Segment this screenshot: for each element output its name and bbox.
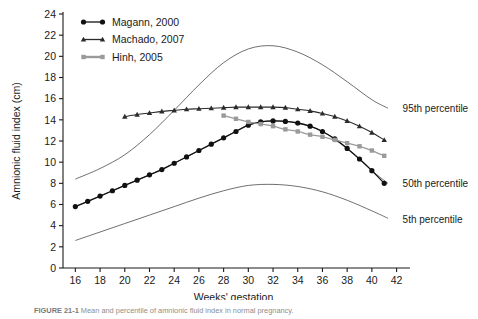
y-tick-label: 10 <box>44 156 56 168</box>
series-marker-magann <box>85 199 90 204</box>
series-marker-hinh <box>258 122 262 126</box>
series-marker-hinh <box>246 120 250 124</box>
percentile-annotation-1: 95th percentile <box>403 103 469 114</box>
y-tick-label: 8 <box>50 177 56 189</box>
legend-label-hinh: Hinh, 2005 <box>112 51 163 63</box>
series-marker-magann <box>97 193 102 198</box>
y-tick-label: 20 <box>44 50 56 62</box>
x-tick-label: 24 <box>168 274 180 286</box>
series-marker-hinh <box>382 154 386 158</box>
series-marker-magann <box>122 183 127 188</box>
x-tick-label: 30 <box>242 274 254 286</box>
x-tick-label: 26 <box>193 274 205 286</box>
series-marker-hinh <box>345 141 349 145</box>
series-marker-magann <box>159 167 164 172</box>
figure-caption: FIGURE 21-1 Mean and percentile of amnio… <box>34 306 464 315</box>
figure-caption-text: Mean and percentile of amnionic fluid in… <box>81 306 294 315</box>
legend-marker-hinh <box>81 55 85 59</box>
series-marker-magann <box>209 142 214 147</box>
series-marker-magann <box>357 156 362 161</box>
y-tick-label: 18 <box>44 71 56 83</box>
series-marker-hinh <box>296 129 300 133</box>
series-marker-hinh <box>234 117 238 121</box>
y-axis-title: Amnionic fluid index (cm) <box>10 82 22 199</box>
series-marker-magann <box>369 168 374 173</box>
series-marker-hinh <box>357 144 361 148</box>
series-marker-hinh <box>370 148 374 152</box>
series-marker-magann <box>135 178 140 183</box>
series-marker-hinh <box>333 138 337 142</box>
x-tick-label: 22 <box>144 274 156 286</box>
x-tick-label: 40 <box>366 274 378 286</box>
series-marker-hinh <box>308 132 312 136</box>
series-marker-magann <box>270 118 275 123</box>
series-marker-hinh <box>271 124 275 128</box>
x-tick-label: 16 <box>70 274 82 286</box>
x-tick-label: 32 <box>267 274 279 286</box>
percentile-curve-1 <box>75 46 388 179</box>
y-tick-label: 6 <box>50 198 56 210</box>
percentile-annotation-3: 5th percentile <box>403 214 463 225</box>
series-marker-magann <box>172 161 177 166</box>
x-tick-label: 20 <box>119 274 131 286</box>
series-marker-magann <box>196 148 201 153</box>
legend-marker-hinh <box>100 55 104 59</box>
series-marker-magann <box>73 204 78 209</box>
series-marker-hinh <box>221 113 225 117</box>
amnionic-fluid-index-chart: 0246810121416182022241618202224262830323… <box>0 0 478 300</box>
series-marker-magann <box>320 129 325 134</box>
percentile-curve-3 <box>75 184 388 240</box>
series-marker-hinh <box>283 127 287 131</box>
y-tick-label: 0 <box>50 262 56 274</box>
x-tick-label: 42 <box>391 274 403 286</box>
y-tick-label: 22 <box>44 29 56 41</box>
series-marker-hinh <box>320 135 324 139</box>
legend-marker-magann <box>81 19 86 24</box>
series-marker-machado <box>382 137 387 142</box>
series-marker-machado <box>369 130 374 135</box>
legend-marker-magann <box>100 19 105 24</box>
y-tick-label: 12 <box>44 135 56 147</box>
series-marker-magann <box>233 129 238 134</box>
series-marker-magann <box>382 181 387 186</box>
legend-label-machado: Machado, 2007 <box>112 33 185 45</box>
figure-caption-label: FIGURE 21-1 <box>34 306 79 315</box>
series-marker-magann <box>221 135 226 140</box>
x-tick-label: 28 <box>218 274 230 286</box>
series-marker-magann <box>295 120 300 125</box>
series-marker-magann <box>110 188 115 193</box>
series-marker-magann <box>147 172 152 177</box>
x-tick-label: 34 <box>292 274 304 286</box>
percentile-annotation-2: 50th percentile <box>403 178 469 189</box>
x-tick-label: 38 <box>341 274 353 286</box>
x-tick-label: 36 <box>317 274 329 286</box>
figure-container: 0246810121416182022241618202224262830323… <box>0 0 478 319</box>
series-marker-magann <box>283 119 288 124</box>
y-tick-label: 16 <box>44 92 56 104</box>
y-tick-label: 24 <box>44 8 56 20</box>
y-tick-label: 14 <box>44 114 56 126</box>
series-marker-magann <box>184 154 189 159</box>
series-marker-magann <box>308 124 313 129</box>
x-tick-label: 18 <box>94 274 106 286</box>
series-marker-magann <box>345 146 350 151</box>
x-axis-title: Weeks' gestation <box>194 291 274 300</box>
series-line-magann <box>75 121 384 207</box>
legend-label-magann: Magann, 2000 <box>112 16 179 28</box>
y-tick-label: 2 <box>50 241 56 253</box>
y-tick-label: 4 <box>50 219 56 231</box>
